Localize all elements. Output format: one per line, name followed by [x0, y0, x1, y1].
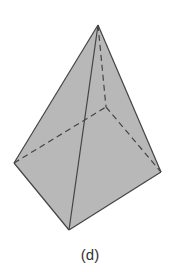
figure-caption: (d) — [0, 246, 176, 263]
tetrahedron-figure — [0, 0, 176, 272]
